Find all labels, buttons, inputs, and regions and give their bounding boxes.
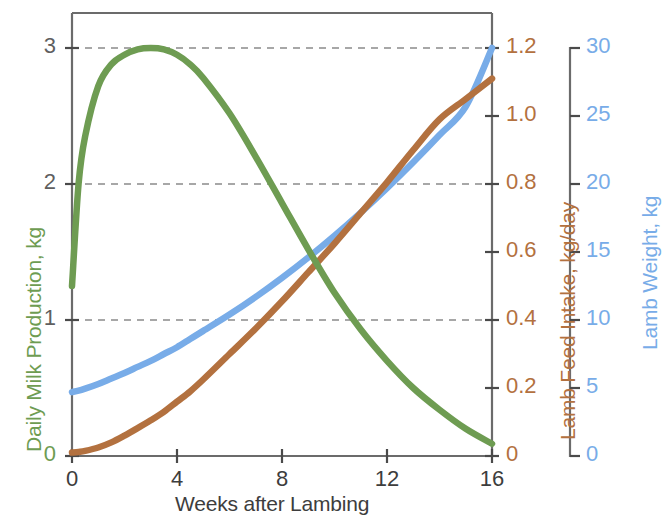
xtick-0: 0 (52, 466, 92, 492)
xtick-12: 12 (367, 466, 407, 492)
data-curves (72, 48, 492, 453)
ytick-feed-0: 0 (506, 441, 518, 467)
ytick-feed-0p2: 0.2 (506, 373, 537, 399)
ytick-weight-30: 30 (586, 33, 610, 59)
ytick-left-3: 3 (18, 33, 56, 59)
ytick-feed-1p0: 1.0 (506, 101, 537, 127)
xtick-4: 4 (157, 466, 197, 492)
xtick-16: 16 (472, 466, 512, 492)
ytick-feed-1p2: 1.2 (506, 33, 537, 59)
chart-figure: 3 2 1 0 Daily Milk Production, kg 0 4 8 … (0, 0, 667, 519)
ytick-feed-0p6: 0.6 (506, 237, 537, 263)
ytick-weight-10: 10 (586, 305, 610, 331)
axis-title-weight: Lamb Weight, kg (638, 196, 662, 350)
ytick-weight-15: 15 (586, 237, 610, 263)
axis-title-milk: Daily Milk Production, kg (22, 227, 46, 452)
ytick-weight-20: 20 (586, 169, 610, 195)
series-feed (72, 79, 492, 453)
ytick-weight-25: 25 (586, 101, 610, 127)
ytick-feed-0p8: 0.8 (506, 169, 537, 195)
ytick-feed-0p4: 0.4 (506, 305, 537, 331)
ytick-weight-0: 0 (586, 441, 598, 467)
series-weight (72, 48, 492, 392)
ytick-weight-5: 5 (586, 373, 598, 399)
series-milk (72, 48, 492, 444)
ytick-left-2: 2 (18, 169, 56, 195)
plot-frame (72, 13, 492, 456)
xtick-8: 8 (262, 466, 302, 492)
axis-title-feed: Lamb Feed Intake, kg/day (556, 202, 580, 440)
axis-title-weeks: Weeks after Lambing (175, 492, 369, 516)
